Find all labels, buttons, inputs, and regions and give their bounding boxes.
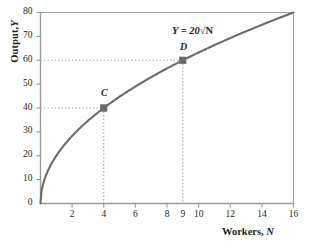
x-tick-label: 10 [190, 209, 208, 219]
x-tick-label: 4 [95, 209, 113, 219]
curve-equation-text: Y = 20 [172, 25, 200, 36]
plot-area [0, 0, 312, 243]
curve-equation-radical: √N [200, 25, 213, 36]
point-marker-d [180, 57, 186, 63]
y-tick-label: 70 [13, 30, 33, 40]
y-tick-label: 30 [13, 125, 33, 135]
x-axis-title-italic: N [266, 226, 274, 237]
production-function-curve [41, 13, 294, 204]
x-tick-label: 12 [221, 209, 239, 219]
y-tick-label: 50 [13, 78, 33, 88]
curve-group [41, 13, 294, 204]
x-axis-title: Workers, N [222, 226, 274, 237]
y-tick-label: 80 [13, 6, 33, 16]
production-function-chart: Output,Y Workers, N Y = 20√N C D 0102030… [0, 0, 312, 243]
y-axis-title-italic: Y [9, 20, 20, 27]
curve-equation-label: Y = 20√N [172, 25, 213, 36]
tick-marks-group [37, 13, 294, 208]
y-tick-label: 20 [13, 149, 33, 159]
x-tick-label: 2 [63, 209, 81, 219]
x-tick-label: 16 [285, 209, 303, 219]
y-tick-label: 0 [13, 197, 33, 207]
x-tick-label: 14 [253, 209, 271, 219]
point-label-d: D [180, 41, 187, 52]
axes-group [41, 13, 294, 204]
x-tick-label: 6 [126, 209, 144, 219]
x-axis-title-bold: Workers, [222, 226, 264, 237]
y-tick-label: 60 [13, 54, 33, 64]
point-label-c: C [101, 87, 108, 98]
point-marker-c [101, 105, 107, 111]
guide-lines-group [41, 60, 183, 203]
y-tick-label: 40 [13, 102, 33, 112]
y-tick-label: 10 [13, 173, 33, 183]
